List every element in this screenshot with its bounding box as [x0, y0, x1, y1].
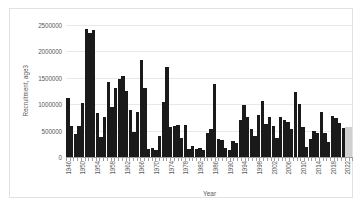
y-axis-tick-label: 0	[59, 154, 62, 161]
bar	[349, 127, 352, 157]
x-axis-tick-labels: 1946195019541958196219661970197419781982…	[66, 161, 353, 189]
x-axis-tick-label: 1970	[153, 161, 160, 175]
plot-area: 25000002000000150000010000005000000	[66, 25, 353, 157]
y-axis-tick-label: 500000	[42, 127, 62, 134]
x-axis-tick-label: 1954	[94, 161, 101, 175]
chart-frame: Recruitment, age3 2500000200000015000001…	[9, 8, 353, 198]
x-axis-tick-label: 1974	[168, 161, 175, 175]
x-axis-tick-label: 2018	[330, 161, 337, 175]
x-axis-tick-label: 1990	[227, 161, 234, 175]
x-axis-tick-label: 2002	[271, 161, 278, 175]
y-axis-title-label: Recruitment, age3	[22, 65, 29, 116]
x-axis-tick-label: 2022	[344, 161, 351, 175]
x-axis-tick-label: 1982	[197, 161, 204, 175]
x-axis-tick-label: 1962	[124, 161, 131, 175]
x-axis-tick-label: 2010	[300, 161, 307, 175]
x-axis-tick-label: 2006	[285, 161, 292, 175]
x-axis-tick-label: 1950	[79, 161, 86, 175]
x-axis-tick-label: 1978	[182, 161, 189, 175]
x-axis-title: Year	[66, 190, 353, 197]
y-axis-tick-label: 1000000	[38, 101, 62, 108]
x-axis-tick-label: 1986	[212, 161, 219, 175]
y-axis-tick-label: 1500000	[38, 74, 62, 81]
x-axis-tick-label: 1994	[241, 161, 248, 175]
bar	[143, 88, 146, 157]
y-axis-title: Recruitment, age3	[20, 25, 30, 157]
x-axis-tick-label: 2014	[315, 161, 322, 175]
x-axis-tick-label: 1946	[65, 161, 72, 175]
y-axis-tick-label: 2000000	[38, 48, 62, 55]
x-axis-tick-label: 1958	[109, 161, 116, 175]
x-axis-tick-label: 1966	[138, 161, 145, 175]
bar-series	[66, 25, 353, 157]
x-axis-tick-label: 1998	[256, 161, 263, 175]
y-axis-tick-label: 2500000	[38, 22, 62, 29]
